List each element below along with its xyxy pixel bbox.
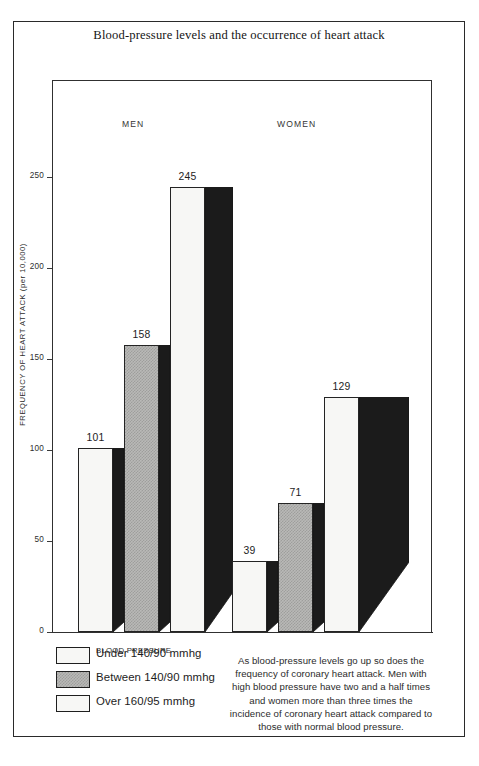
y-tick-mark (47, 450, 52, 451)
bar-side-face (159, 345, 170, 632)
caption-text: As blood-pressure levels go up so does t… (228, 654, 434, 733)
y-tick-mark (47, 177, 52, 178)
bar-men-over[interactable] (170, 187, 205, 632)
bar-men-between[interactable] (124, 345, 159, 632)
legend-item-between[interactable]: Between 140/90 mmhg (56, 669, 231, 693)
y-tick-mark (47, 268, 52, 269)
y-tick-mark (47, 359, 52, 360)
legend-item-under[interactable]: Under 140/90 mmhg (56, 645, 231, 669)
legend-label-under: Under 140/90 mmhg (96, 647, 202, 659)
bar-side-face (205, 187, 216, 632)
legend-swatch-between-icon (56, 671, 90, 688)
legend-item-over[interactable]: Over 160/95 mmhg (56, 693, 231, 717)
bar-value-men-between: 158 (124, 329, 159, 340)
bar-front-face (324, 397, 359, 632)
bar-women-between[interactable] (278, 503, 313, 632)
y-tick-mark (47, 632, 52, 633)
bar-front-face (78, 448, 113, 632)
group-label-men: MEN (122, 119, 144, 129)
bar-men-under[interactable] (78, 448, 113, 632)
page-title: Blood-pressure levels and the occurrence… (13, 28, 465, 43)
y-tick-label: 250 (30, 171, 44, 180)
legend: Under 140/90 mmhg Between 140/90 mmhg Ov… (56, 645, 231, 717)
bar-women-over[interactable] (324, 397, 359, 632)
bar-front-face (278, 503, 313, 632)
x-axis-baseline (52, 632, 433, 633)
bar-side-face (359, 397, 370, 632)
bar-value-women-between: 71 (278, 487, 313, 498)
bar-value-women-under: 39 (232, 545, 267, 556)
y-axis-tick-50: 50 (0, 541, 52, 542)
legend-swatch-under-icon (56, 647, 90, 664)
y-tick-label: 50 (34, 535, 44, 544)
y-tick-label: 100 (30, 444, 44, 453)
y-tick-label: 200 (30, 262, 44, 271)
bar-side-face (313, 503, 324, 632)
bar-front-face (232, 561, 267, 632)
bar-front-face (170, 187, 205, 632)
bar-value-men-over: 245 (170, 171, 205, 182)
bar-women-under[interactable] (232, 561, 267, 632)
legend-swatch-over-icon (56, 695, 90, 712)
bar-side-face (267, 561, 278, 632)
y-tick-label: 150 (30, 353, 44, 362)
bar-side-face (113, 448, 124, 632)
bar-value-women-over: 129 (324, 381, 359, 392)
y-tick-mark (47, 541, 52, 542)
y-axis-tick-0: 0 (0, 632, 52, 633)
bar-value-men-under: 101 (78, 432, 113, 443)
group-label-women: WOMEN (277, 119, 316, 129)
legend-label-over: Over 160/95 mmhg (96, 695, 195, 707)
y-tick-label: 0 (39, 626, 44, 635)
bar-front-face (124, 345, 159, 632)
y-axis-title: FREQUENCY OF HEART ATTACK (per 10,000) (18, 145, 27, 525)
legend-label-between: Between 140/90 mmhg (96, 671, 215, 683)
